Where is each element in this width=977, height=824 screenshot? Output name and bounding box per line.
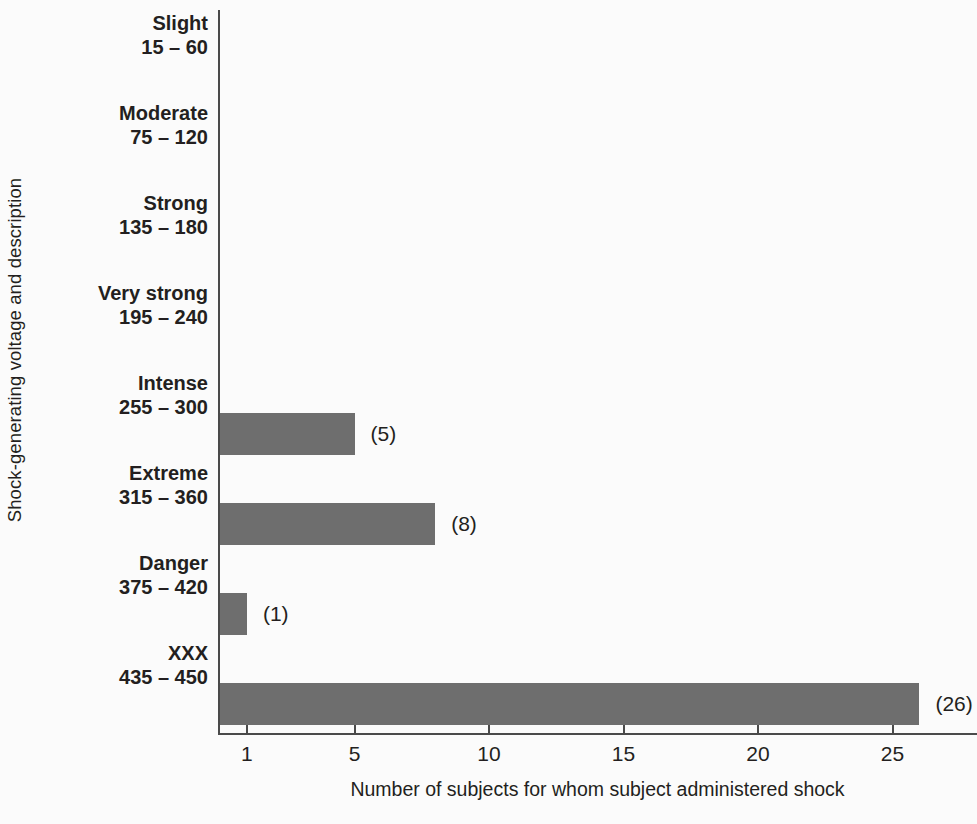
bar-value-label: (26) <box>935 692 972 716</box>
bar-intense <box>220 413 355 455</box>
bar-value-label: (5) <box>371 422 397 446</box>
chart-figure: Shock-generating voltage and description… <box>0 0 977 824</box>
x-axis-tick-label: 15 <box>612 742 635 766</box>
x-axis-tick-label: 10 <box>477 742 500 766</box>
x-axis-line <box>218 733 977 735</box>
x-axis-tick-label: 20 <box>746 742 769 766</box>
x-axis-tick-label: 1 <box>241 742 253 766</box>
bar-value-label: (1) <box>263 602 289 626</box>
x-axis-tick-label: 25 <box>881 742 904 766</box>
bar-value-label: (8) <box>451 512 477 536</box>
bar-extreme <box>220 503 435 545</box>
plot-area: 1510152025 (5)(8)(1)(26) <box>0 0 977 824</box>
x-axis-tick-label: 5 <box>349 742 361 766</box>
bar-xxx <box>220 683 919 725</box>
x-axis-title: Number of subjects for whom subject admi… <box>218 778 977 801</box>
bar-danger <box>220 593 247 635</box>
